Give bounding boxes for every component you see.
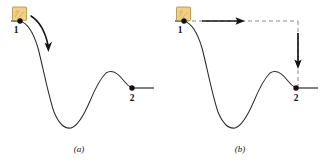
figure-canvas: 1 2 (a): [0, 0, 322, 163]
physics-figure-container: 1 2 (a): [0, 0, 322, 163]
point-2-label-panel-a: 2: [130, 93, 135, 103]
point-1-label-panel-a: 1: [14, 25, 19, 35]
track-curve-panel-b: [184, 21, 296, 128]
point-1-dot-panel-b: [181, 18, 186, 23]
point-2-dot-panel-b: [293, 85, 298, 90]
point-2-label-panel-b: 2: [294, 93, 299, 103]
panel-caption-b: (b): [235, 144, 246, 154]
panel-b-group: 1 2 (b): [175, 7, 318, 154]
point-1-label-panel-b: 1: [178, 25, 183, 35]
horizontal-displacement-arrow: [202, 17, 245, 24]
vertical-displacement-arrow: [294, 33, 301, 69]
panel-a-group: 1 2 (a): [11, 7, 154, 154]
panel-caption-a: (a): [74, 144, 85, 154]
curved-motion-arrow: [31, 16, 52, 52]
track-curve-panel-a: [20, 21, 132, 128]
point-2-dot-panel-a: [129, 85, 134, 90]
point-1-dot-panel-a: [17, 18, 22, 23]
